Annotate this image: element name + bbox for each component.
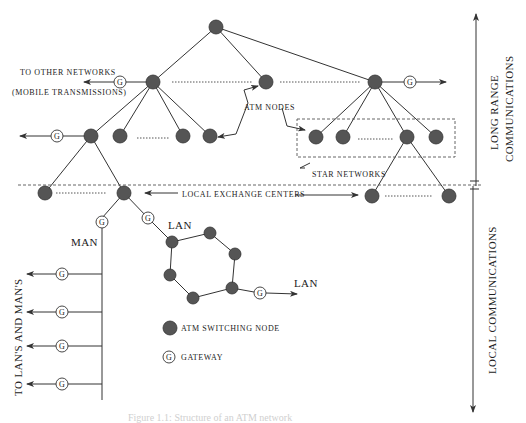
svg-text:G: G xyxy=(99,218,105,227)
atm-network-diagram: G G G G G G G G G xyxy=(0,0,526,423)
gateway-mid-left: G xyxy=(20,130,91,142)
long-range-label: LONG RANGE xyxy=(488,75,500,150)
svg-text:G: G xyxy=(59,380,65,389)
legend-node-icon xyxy=(163,321,177,335)
communications-label: COMMUNICATIONS xyxy=(503,56,515,162)
svg-text:G: G xyxy=(59,270,65,279)
local-exchange-centers-label: LOCAL EXCHANGE CENTERS xyxy=(182,190,305,199)
gateway-lan: G xyxy=(142,212,154,224)
svg-text:G: G xyxy=(407,78,413,87)
local-communications-label: LOCAL COMMUNICATIONS xyxy=(486,226,498,374)
figure-caption: Figure 1.1: Structure of an ATM network xyxy=(128,412,292,423)
lan-out-label: LAN xyxy=(294,277,318,289)
mobile-transmissions-label: (MOBILE TRANSMISSIONS) xyxy=(12,88,127,97)
to-lans-and-mans-label: TO LAN'S AND MAN'S xyxy=(12,278,24,396)
svg-text:G: G xyxy=(59,342,65,351)
legend-switching-node-label: ATM SWITCHING NODE xyxy=(181,324,280,333)
legend-gateway-label: GATEWAY xyxy=(181,353,223,362)
svg-text:G: G xyxy=(145,214,151,223)
gateway-top-left: G xyxy=(84,76,153,88)
svg-text:G: G xyxy=(59,308,65,317)
svg-text:G: G xyxy=(54,132,60,141)
tree-edges xyxy=(45,27,449,242)
range-axis xyxy=(470,14,479,412)
man-label: MAN xyxy=(71,236,98,248)
star-networks-label: STAR NETWORKS xyxy=(312,170,386,179)
atm-switching-nodes xyxy=(38,20,456,304)
svg-text:G: G xyxy=(257,289,263,298)
atm-nodes-label: ATM NODES xyxy=(244,103,295,112)
man-branches: G G G G xyxy=(27,268,102,390)
legend: ATM SWITCHING NODE G GATEWAY xyxy=(163,321,280,363)
lan-ring-label: LAN xyxy=(168,219,192,231)
gateway-top-right: G xyxy=(375,76,446,88)
svg-text:G: G xyxy=(117,78,123,87)
to-other-networks-label: TO OTHER NETWORKS xyxy=(20,68,116,77)
svg-text:G: G xyxy=(166,353,172,362)
